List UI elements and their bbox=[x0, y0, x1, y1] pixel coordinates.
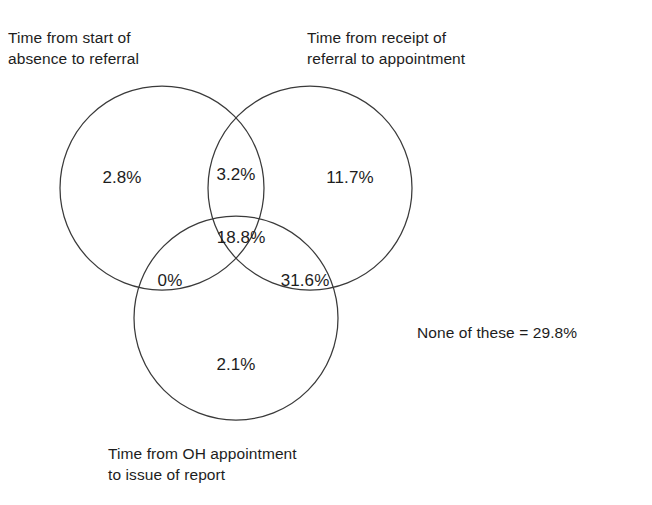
venn-circle-left bbox=[60, 86, 264, 290]
venn-label-right: Time from receipt of referral to appoint… bbox=[307, 27, 465, 69]
venn-label-bottom: Time from OH appointment to issue of rep… bbox=[108, 443, 297, 485]
venn-circles-graphic bbox=[0, 0, 652, 505]
venn-value-right-only: 11.7% bbox=[326, 168, 373, 188]
venn-value-bottom-only: 2.1% bbox=[216, 355, 255, 375]
venn-label-left: Time from start of absence to referral bbox=[8, 27, 139, 69]
venn-circle-right bbox=[208, 86, 412, 290]
venn-none-of-these-note: None of these = 29.8% bbox=[417, 322, 577, 343]
venn-value-left-only: 2.8% bbox=[102, 168, 141, 188]
venn-value-right-bottom: 31.6% bbox=[281, 271, 330, 291]
venn-value-left-right: 3.2% bbox=[216, 165, 255, 185]
venn-diagram-figure: Time from start of absence to referral T… bbox=[0, 0, 652, 505]
venn-value-left-bottom: 0% bbox=[158, 271, 183, 291]
venn-value-all-three: 18.8% bbox=[217, 228, 266, 248]
